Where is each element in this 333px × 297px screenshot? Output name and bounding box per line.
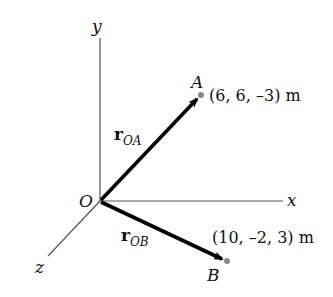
- point-a-dot: [198, 92, 204, 98]
- y-axis-label: y: [91, 16, 102, 36]
- vector-r-ob-label: rOB: [121, 225, 149, 249]
- vector-r-ob: [101, 202, 222, 259]
- origin-label: O: [79, 191, 93, 211]
- z-axis-label: z: [34, 257, 45, 277]
- point-b-coords: (10, –2, 3) m: [212, 228, 314, 247]
- point-a-coords: (6, 6, –3) m: [209, 86, 301, 105]
- vector-r-oa: [101, 99, 197, 200]
- x-axis-label: x: [287, 190, 297, 210]
- point-b-dot: [224, 258, 230, 264]
- vector-diagram: y x z O A (6, 6, –3) m B (10, –2, 3) m r…: [0, 0, 333, 297]
- point-b-label: B: [206, 265, 220, 285]
- vector-r-oa-label: rOA: [114, 124, 142, 148]
- point-a-label: A: [189, 72, 203, 92]
